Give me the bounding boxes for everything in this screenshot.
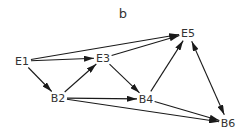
node-e1: E1 <box>15 55 29 68</box>
edge-e5-b6 <box>192 41 225 115</box>
node-b2: B2 <box>51 92 66 105</box>
edge-e3-b4 <box>110 64 140 93</box>
edge-e3-e5 <box>112 36 180 56</box>
edge-e1-e3 <box>31 58 94 60</box>
node-e5: E5 <box>181 27 195 40</box>
edges <box>28 35 224 122</box>
node-b4: B4 <box>139 93 154 106</box>
edge-b4-b6 <box>155 102 220 121</box>
edge-b4-e5 <box>151 41 183 92</box>
directed-graph: b E1E3E5B2B4B6 <box>0 0 242 138</box>
node-b6: B6 <box>221 117 236 130</box>
edge-b2-b4 <box>67 98 137 99</box>
edge-e1-b2 <box>28 68 51 92</box>
node-e3: E3 <box>96 52 110 65</box>
edge-b2-e3 <box>65 64 97 92</box>
diagram-title: b <box>119 6 127 21</box>
